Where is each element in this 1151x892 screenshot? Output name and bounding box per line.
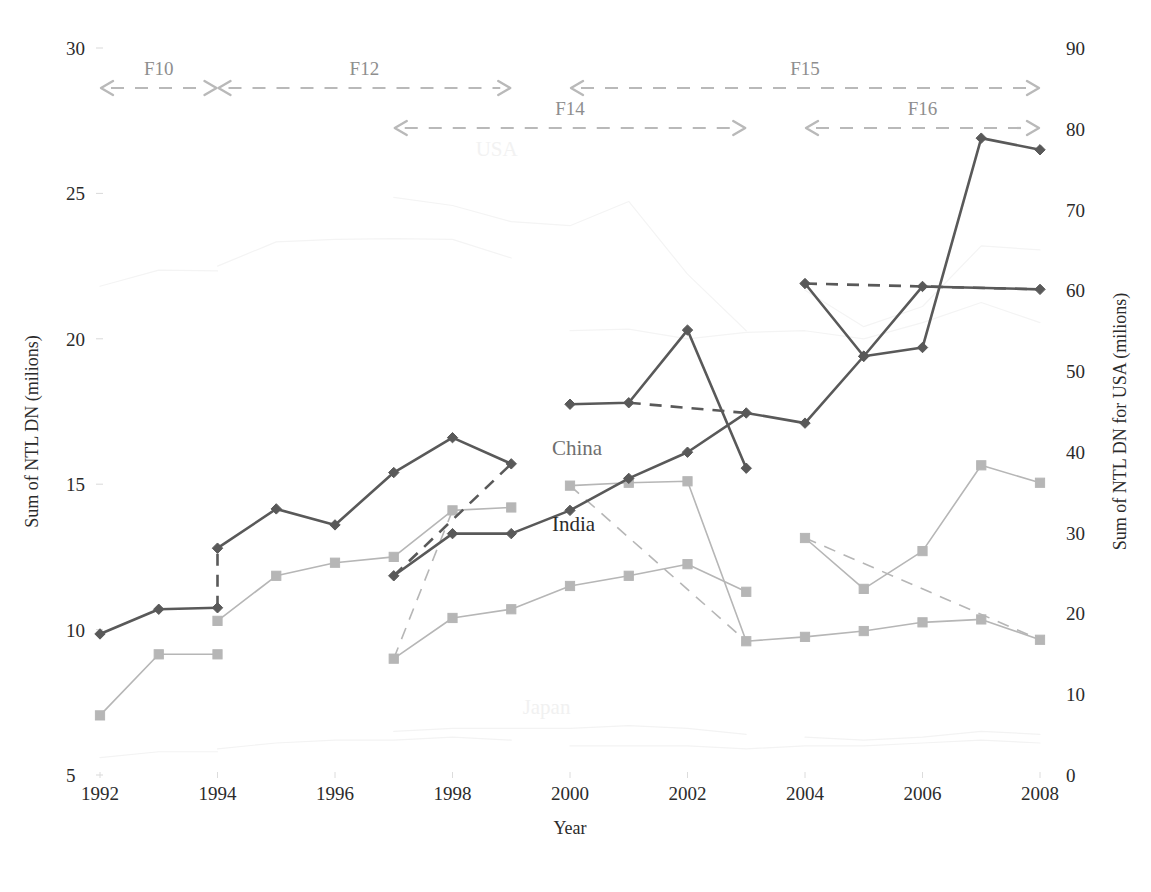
- svg-text:F14: F14: [555, 98, 585, 119]
- segment-f14: [394, 197, 747, 330]
- dashed-connector: [629, 403, 747, 413]
- data-point: [977, 461, 986, 470]
- segment-f15-lead: [394, 510, 570, 575]
- x-axis-title: Year: [553, 818, 586, 838]
- y-axis-right-tick: 30: [1066, 523, 1085, 544]
- line-chart: 5101520253001020304050607080901992199419…: [0, 0, 1151, 892]
- data-point: [1035, 145, 1045, 155]
- x-axis-tick: 2000: [551, 783, 589, 804]
- data-point: [389, 654, 398, 663]
- data-point: [213, 650, 222, 659]
- y-axis-left-tick: 30: [66, 38, 85, 59]
- data-point: [507, 605, 516, 614]
- data-point: [389, 552, 398, 561]
- data-point: [507, 503, 516, 512]
- dashed-connector: [394, 464, 512, 576]
- series-label-usa: USA: [476, 137, 519, 161]
- y-axis-right-title: Sum of NTL DN for USA (milions): [1110, 293, 1131, 550]
- data-point: [448, 506, 457, 515]
- segment-f14: [394, 564, 747, 659]
- data-point: [859, 584, 868, 593]
- y-axis-right-tick: 70: [1066, 200, 1085, 221]
- segment-f10: [100, 654, 218, 715]
- data-point: [95, 629, 105, 639]
- data-point: [742, 637, 751, 646]
- series-label-japan: Japan: [523, 695, 571, 719]
- y-axis-left-tick: 5: [66, 765, 76, 786]
- data-point: [918, 546, 927, 555]
- data-point: [565, 481, 574, 490]
- data-point: [977, 615, 986, 624]
- x-axis-tick: 2008: [1021, 783, 1059, 804]
- data-point: [800, 632, 809, 641]
- data-point: [917, 342, 927, 352]
- segment-f12: [218, 239, 512, 266]
- satellite-span-f10: F10: [101, 58, 217, 95]
- data-point: [624, 571, 633, 580]
- data-point: [683, 477, 692, 486]
- satellite-span-f14: F14: [395, 98, 746, 135]
- data-point: [859, 626, 868, 635]
- satellite-span-f15: F15: [571, 58, 1039, 95]
- y-axis-left-tick: 25: [66, 183, 85, 204]
- data-point: [213, 616, 222, 625]
- y-axis-right-tick: 80: [1066, 119, 1085, 140]
- data-point: [154, 604, 164, 614]
- y-axis-right-tick: 60: [1066, 280, 1085, 301]
- data-point: [1035, 284, 1045, 294]
- satellite-span-f12: F12: [219, 58, 511, 95]
- series-usa: [100, 197, 1040, 338]
- y-axis-right-tick: 0: [1066, 765, 1076, 786]
- data-point: [95, 711, 104, 720]
- segment-f16: [805, 465, 1040, 589]
- data-point: [154, 650, 163, 659]
- data-point: [1035, 478, 1044, 487]
- x-axis-tick: 1996: [316, 783, 354, 804]
- dashed-connector: [570, 486, 746, 642]
- data-point: [212, 603, 222, 613]
- x-axis-tick: 2004: [786, 783, 825, 804]
- segment-f15: [570, 740, 1040, 749]
- segment-f15: [570, 481, 1040, 641]
- y-axis-right-tick: 40: [1066, 442, 1085, 463]
- data-point: [800, 533, 809, 542]
- svg-text:F10: F10: [144, 58, 174, 79]
- y-axis-left-tick: 15: [66, 474, 85, 495]
- x-axis-tick: 2006: [904, 783, 942, 804]
- data-point: [918, 618, 927, 627]
- segment-f14: [394, 726, 747, 735]
- svg-text:F12: F12: [350, 58, 380, 79]
- segment-f15: [570, 302, 1040, 338]
- data-point: [683, 560, 692, 569]
- y-axis-right-tick: 50: [1066, 361, 1085, 382]
- y-axis-left-tick: 10: [66, 620, 85, 641]
- segment-f15: [570, 138, 1040, 510]
- series-label-india: India: [552, 512, 596, 536]
- segment-f12: [218, 737, 512, 749]
- svg-text:F15: F15: [790, 58, 820, 79]
- data-point: [742, 587, 751, 596]
- y-axis-right-tick: 10: [1066, 684, 1085, 705]
- y-axis-left-tick: 20: [66, 329, 85, 350]
- series-label-china: China: [552, 436, 603, 460]
- data-point: [272, 571, 281, 580]
- satellite-span-f16: F16: [806, 98, 1039, 135]
- y-axis-right-tick: 20: [1066, 603, 1085, 624]
- series-india: [95, 461, 1044, 720]
- data-point: [330, 558, 339, 567]
- series-japan: [100, 726, 1040, 758]
- svg-text:F16: F16: [908, 98, 938, 119]
- x-axis-tick: 1992: [81, 783, 119, 804]
- data-point: [565, 399, 575, 409]
- segment-f12: [218, 507, 512, 620]
- segment-f10: [100, 752, 218, 758]
- x-axis-tick: 1994: [199, 783, 238, 804]
- data-point: [741, 463, 751, 473]
- data-point: [976, 133, 986, 143]
- segment-f10: [100, 270, 218, 286]
- data-point: [448, 613, 457, 622]
- x-axis-tick: 1998: [434, 783, 472, 804]
- segment-f16: [805, 731, 1040, 740]
- segment-f12: [218, 438, 512, 549]
- y-axis-left-title: Sum of NTL DN (milions): [22, 335, 43, 527]
